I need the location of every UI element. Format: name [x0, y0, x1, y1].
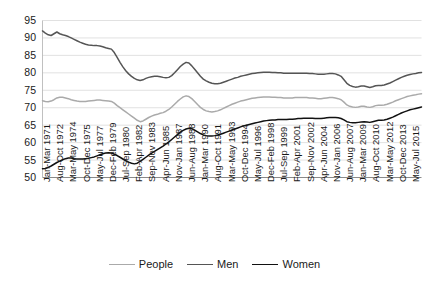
x-tick-label: Jun-Aug 1988 — [187, 123, 196, 181]
legend-line-swatch — [187, 264, 213, 265]
x-tick-label: May-Jul 1977 — [95, 125, 104, 181]
x-tick-label: Oct-Dec 1975 — [82, 124, 91, 182]
x-tick-label: Mar-May 1974 — [68, 121, 77, 181]
x-tick-label: Feb-Apr 1982 — [134, 124, 143, 181]
x-tick-label: Aug-Oct 1991 — [213, 124, 222, 182]
x-tick-label: Jul-Sep 1980 — [121, 126, 130, 181]
legend-label: Women — [282, 258, 320, 270]
y-tick-label: 80 — [14, 67, 36, 77]
x-tick-label: Nov-Jan 2006 — [332, 123, 341, 181]
x-tick-label: Feb-Apr 2001 — [292, 124, 301, 181]
legend-item-people[interactable]: People — [109, 258, 173, 270]
y-tick-label: 90 — [14, 32, 36, 42]
employment-rate-line-chart: 50556065707580859095 Jan-Mar 1971Aug-Oct… — [0, 0, 429, 283]
y-tick-label: 60 — [14, 137, 36, 147]
x-tick-label: Dec-Feb 1998 — [266, 122, 275, 181]
x-tick-label: Mar-May 1993 — [227, 121, 236, 181]
y-tick-label: 70 — [14, 102, 36, 112]
x-tick-label: Jan-Mar 1990 — [200, 124, 209, 182]
x-tick-label: Oct-Dec 2013 — [398, 124, 407, 182]
y-tick-label: 50 — [14, 172, 36, 182]
x-tick-label: Aug-Oct 2010 — [371, 124, 380, 182]
x-tick-label: Sep-Nov 2002 — [306, 122, 315, 182]
x-tick-label: Aug-Oct 1972 — [55, 124, 64, 182]
x-tick-label: May-Jul 2015 — [411, 125, 420, 181]
x-tick-label: Jan-Mar 1971 — [42, 124, 51, 182]
x-tick-label: Sep-Nov 1983 — [147, 122, 156, 182]
legend-item-men[interactable]: Men — [187, 258, 238, 270]
y-tick-label: 55 — [14, 155, 36, 165]
x-tick-label: Jul-Sep 1999 — [279, 126, 288, 181]
x-tick-label: Oct-Dec 1994 — [240, 124, 249, 182]
legend-label: People — [139, 258, 173, 270]
x-tick-label: May-Jul 1996 — [253, 125, 262, 181]
legend-item-women[interactable]: Women — [252, 258, 320, 270]
legend-line-swatch — [109, 264, 135, 265]
chart-legend: PeopleMenWomen — [0, 258, 429, 270]
x-tick-label: Nov-Jan 1987 — [174, 123, 183, 181]
x-tick-label: Dec-Feb 1979 — [108, 122, 117, 181]
legend-line-swatch — [252, 264, 278, 265]
x-tick-label: Apr-Jun 2004 — [319, 125, 328, 181]
x-tick-label: Jun-Aug 2007 — [345, 123, 354, 181]
x-tick-label: Apr-Jun 1985 — [161, 125, 170, 181]
y-tick-label: 65 — [14, 120, 36, 130]
y-tick-label: 75 — [14, 85, 36, 95]
y-tick-label: 85 — [14, 50, 36, 60]
x-tick-label: Jan-Mar 2009 — [358, 124, 367, 182]
series-line-men — [43, 31, 422, 88]
legend-label: Men — [217, 258, 238, 270]
y-tick-label: 95 — [14, 15, 36, 25]
x-tick-label: Mar-May 2012 — [385, 121, 394, 181]
